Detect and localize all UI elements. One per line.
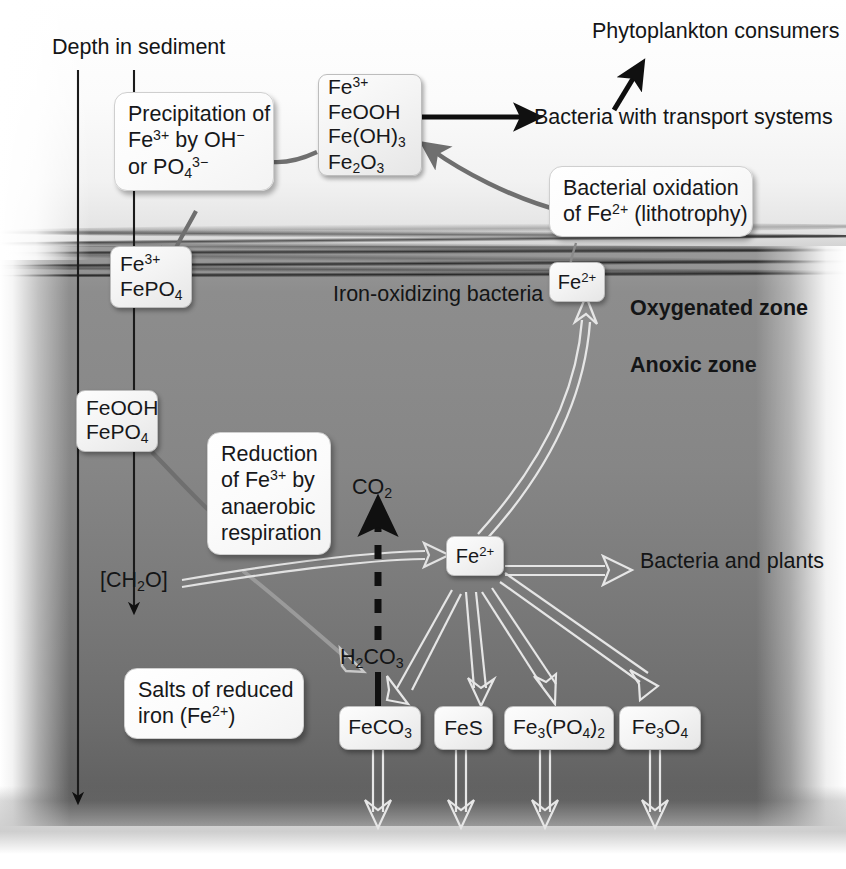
- reduction-line4: respiration: [221, 520, 317, 546]
- species-feooh-anoxic: FeOOH: [86, 396, 158, 420]
- co2-label: CO2: [352, 474, 392, 502]
- species-fe2-plus-anoxic: Fe2+: [456, 544, 494, 568]
- reduction-line1: Reduction: [221, 441, 317, 467]
- species-feco3: FeCO3: [348, 715, 412, 741]
- node-fes[interactable]: FeS: [434, 706, 493, 750]
- bacteria-transport-line2: transport systems: [663, 105, 833, 129]
- precipitation-line3: or PO43−: [128, 154, 260, 182]
- anoxic-zone-label: Anoxic zone: [630, 352, 757, 378]
- species-fe3po42: Fe3(PO4)2: [513, 715, 605, 741]
- arrow-fe2-to-feco3-a: [397, 590, 452, 688]
- iron-oxidizing-bacteria-label: Iron-oxidizing bacteria: [333, 281, 543, 307]
- precipitation-line1: Precipitation of: [128, 101, 260, 127]
- node-fe2-surface[interactable]: Fe2+: [549, 262, 605, 302]
- node-fe3po42[interactable]: Fe3(PO4)2: [504, 706, 614, 750]
- bacterial-oxidation-line2: of Fe2+ (lithotrophy): [563, 201, 739, 227]
- reduction-line2: of Fe3+ by: [221, 467, 317, 493]
- arrow-fe2-to-feco3-b: [412, 594, 461, 690]
- species-fes: FeS: [444, 716, 483, 740]
- bacteria-plants-line2: and plants: [725, 549, 824, 573]
- salts-line2: iron (Fe2+): [138, 703, 290, 729]
- bacteria-transport-label: Bacteria with transport systems: [534, 104, 833, 130]
- node-fe2-anoxic[interactable]: Fe2+: [446, 536, 504, 576]
- arrowhead-fe2-to-feco3: [387, 676, 408, 704]
- bacteria-and-plants-label: Bacteria and plants: [640, 548, 824, 574]
- node-fe3-fepo4[interactable]: Fe3+ FePO4: [110, 246, 192, 308]
- reduction-line3: anaerobic: [221, 494, 317, 520]
- node-fe3o4[interactable]: Fe3O4: [619, 706, 701, 750]
- species-fe3-plus-interface: Fe3+: [120, 251, 183, 276]
- arrow-oxidation-to-ferric: [432, 150, 565, 212]
- arrowhead-fe2-to-bacteria-plants: [603, 556, 632, 585]
- phytoplankton-line2: consumers: [734, 19, 839, 43]
- bacterial-oxidation-line1: Bacterial oxidation: [563, 175, 739, 201]
- precipitation-line2: Fe3+ by OH−: [128, 127, 260, 153]
- species-fepo4-interface: FePO4: [120, 277, 183, 303]
- salts-line1: Salts of reduced: [138, 677, 290, 703]
- species-fepo4-anoxic: FePO4: [86, 420, 158, 446]
- species-feooh: FeOOH: [328, 100, 406, 124]
- arrow-fe2-to-fes-a: [466, 592, 474, 688]
- species-fe3o4: Fe3O4: [632, 715, 688, 741]
- phytoplankton-consumers-label: Phytoplankton consumers: [592, 18, 792, 44]
- species-fe2o3: Fe2O3: [328, 150, 406, 176]
- node-ferric-oxides[interactable]: Fe3+ FeOOH Fe(OH)3 Fe2O3: [318, 74, 422, 176]
- phytoplankton-line1: Phytoplankton: [592, 19, 728, 43]
- node-feco3[interactable]: FeCO3: [339, 706, 421, 750]
- species-fe2-plus-surface: Fe2+: [558, 270, 596, 294]
- callout-precipitation[interactable]: Precipitation of Fe3+ by OH− or PO43−: [114, 92, 274, 191]
- arrowhead-fe2-to-fes: [468, 678, 494, 706]
- callout-reduction[interactable]: Reduction of Fe3+ by anaerobic respirati…: [207, 432, 331, 555]
- burial-outflow-arrows: [365, 749, 668, 828]
- depth-axis-label: Depth in sediment: [52, 34, 225, 60]
- arrow-ch2o-to-fe2-anoxic: [182, 551, 425, 580]
- oxygenated-zone-label: Oxygenated zone: [630, 295, 808, 321]
- arrow-ferric-to-precipitation: [272, 152, 317, 162]
- h2co3-label: H2CO3: [340, 644, 404, 672]
- arrowhead-fe2-to-fe3o4: [630, 670, 658, 700]
- species-fe3-plus: Fe3+: [328, 74, 406, 99]
- bacteria-plants-line1: Bacteria: [640, 549, 719, 573]
- arrow-reduction-to-h2co3: [243, 571, 346, 658]
- iron-cycle-diagram: Depth in sediment Phytoplankton consumer…: [0, 0, 846, 869]
- node-feooh-fepo4[interactable]: FeOOH FePO4: [76, 390, 158, 452]
- arrow-fe2-anoxic-to-surface-left: [478, 320, 582, 534]
- callout-bacterial-oxidation[interactable]: Bacterial oxidation of Fe2+ (lithotrophy…: [549, 166, 753, 237]
- callout-salts-of-reduced-iron[interactable]: Salts of reduced iron (Fe2+): [124, 668, 304, 739]
- species-feoh3: Fe(OH)3: [328, 124, 406, 150]
- ch2o-label: [CH2O]: [100, 567, 168, 595]
- arrow-fe2-to-fe3o4-b: [505, 573, 648, 673]
- bacteria-transport-line1: Bacteria with: [534, 105, 657, 129]
- arrow-fe2-to-fes-b: [476, 592, 486, 688]
